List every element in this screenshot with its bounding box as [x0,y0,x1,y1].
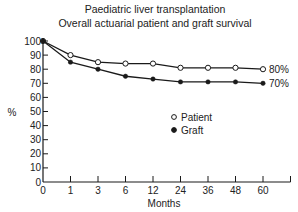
x-tick-label: 48 [230,185,242,196]
x-tick-label: 24 [175,185,187,196]
legend-label-patient: Patient [181,112,212,123]
legend-label-graft: Graft [181,125,203,136]
y-tick-label: 20 [30,148,42,159]
y-tick-label: 50 [30,106,42,117]
y-tick-label: 80 [30,64,42,75]
y-axis-label: % [8,107,17,118]
end-value-label: 80% [269,64,289,75]
open-circle-marker [178,65,183,70]
survival-line-chart: 0102030405060708090100%01361224364860Mon… [0,0,298,212]
x-tick-label: 60 [257,185,269,196]
y-tick-label: 10 [30,162,42,173]
y-tick-label: 100 [24,36,41,47]
filled-circle-marker [261,81,265,85]
filled-circle-marker [178,80,182,84]
open-circle-marker [150,61,155,66]
filled-circle-marker [206,80,210,84]
open-circle-marker [233,65,238,70]
filled-circle-marker [68,60,72,64]
x-axis-label: Months [148,198,181,209]
open-circle-marker [260,67,265,72]
data-series: 80%70% [40,38,289,89]
x-tick-label: 12 [147,185,159,196]
open-circle-marker [123,61,128,66]
x-tick-label: 1 [68,185,74,196]
legend-open-circle-icon [172,115,177,120]
legend-filled-circle-icon [172,128,177,133]
filled-circle-marker [96,67,100,71]
open-circle-marker [205,65,210,70]
filled-circle-marker [41,39,45,43]
open-circle-marker [68,53,73,58]
y-tick-label: 30 [30,134,42,145]
y-tick-label: 70 [30,78,42,89]
y-tick-label: 40 [30,120,42,131]
x-tick-label: 0 [40,185,46,196]
end-value-label: 70% [269,78,289,89]
filled-circle-marker [151,77,155,81]
y-tick-label: 60 [30,92,42,103]
legend: PatientGraft [172,112,213,136]
x-tick-label: 36 [202,185,214,196]
x-tick-label: 6 [123,185,129,196]
filled-circle-marker [123,74,127,78]
open-circle-marker [95,60,100,65]
y-tick-label: 90 [30,50,42,61]
filled-circle-marker [233,80,237,84]
axes: 0102030405060708090100%01361224364860Mon… [8,36,291,210]
x-tick-label: 3 [95,185,101,196]
